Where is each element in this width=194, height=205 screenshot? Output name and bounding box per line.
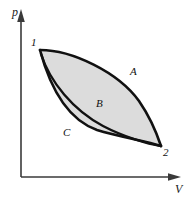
process-curve-label-b: B [96, 98, 103, 109]
state-point-label-1: 1 [31, 37, 37, 48]
pressure-axis-arrowhead [17, 9, 25, 22]
process-curve-label-c: C [63, 127, 70, 138]
volume-axis-arrowhead [168, 173, 181, 181]
state-point-label-2: 2 [163, 147, 169, 158]
process-curve-label-a: A [130, 66, 137, 77]
pressure-axis-label: p [12, 6, 18, 18]
volume-axis-label: V [175, 183, 182, 195]
pv-diagram-figure: p V 1 2 A B C [0, 0, 194, 205]
